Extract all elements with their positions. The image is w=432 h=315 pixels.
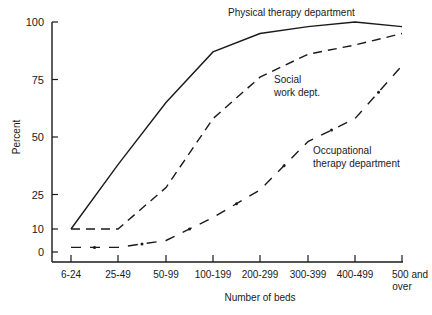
x-tick-label: 400-499 [337,269,374,280]
series-dot [283,164,286,167]
x-tick-label: 200-299 [242,269,279,280]
x-tick-label: over [392,281,412,292]
series-dot [93,246,96,249]
series-line-2 [71,66,402,248]
y-tick-label: 10 [32,223,44,235]
x-tick-label: 500 and [392,269,428,280]
line-chart: 010255075100Percent6-2425-4950-99100-199… [0,0,432,315]
x-axis-label: Number of beds [224,292,295,303]
series-dot [377,91,380,94]
series-line-1 [71,34,402,230]
series-dot [330,129,333,132]
y-tick-label: 100 [26,16,44,28]
y-tick-label: 25 [32,189,44,201]
series-dot [141,242,144,245]
y-axis-label: Percent [11,120,22,155]
series-lines [71,22,402,249]
x-tick-label: 100-199 [195,269,232,280]
label-physical-therapy: Physical therapy department [228,7,355,18]
x-tick-label: 50-99 [153,269,179,280]
label-occupational-therapy: therapy department [313,158,400,169]
y-tick-label: 0 [38,246,44,258]
series-line-0 [71,22,402,229]
label-occupational-therapy: Occupational [313,145,371,156]
series-dot [235,202,238,205]
x-tick-label: 300-399 [290,269,327,280]
y-tick-label: 50 [32,131,44,143]
series-dot [188,228,191,231]
label-social-work: work dept. [273,87,320,98]
x-tick-label: 6-24 [61,269,81,280]
label-social-work: Social [274,74,301,85]
y-tick-label: 75 [32,74,44,86]
x-tick-label: 25-49 [105,269,131,280]
annotations: Physical therapy departmentSocialwork de… [228,7,400,169]
